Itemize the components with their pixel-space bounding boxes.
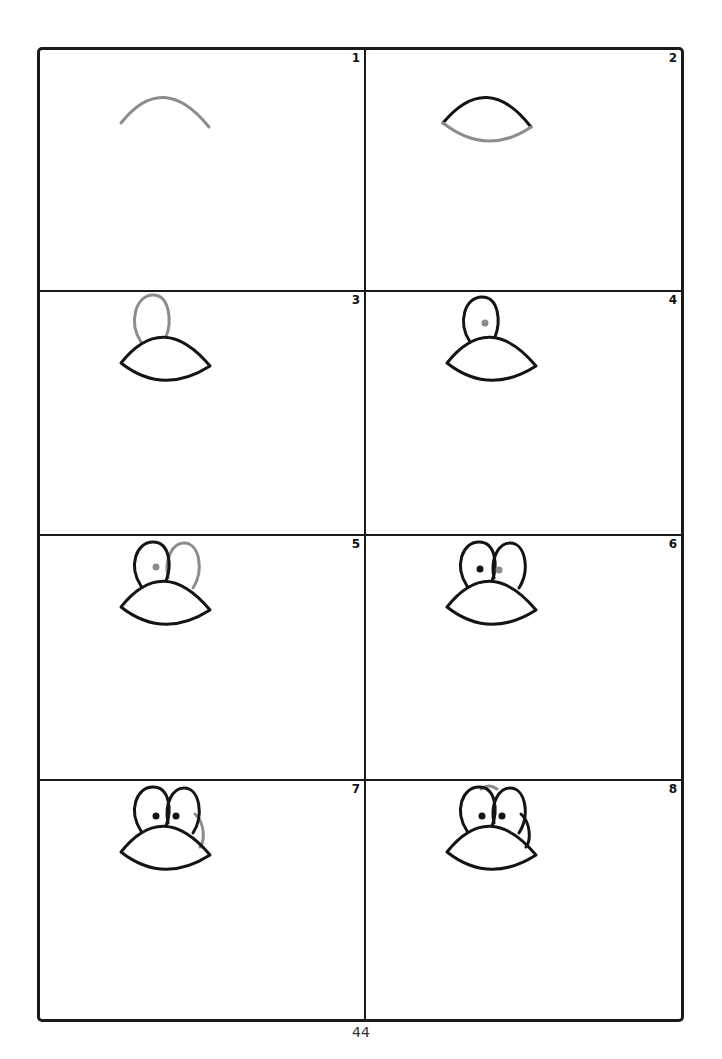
step-panel-6: 6 bbox=[366, 536, 681, 781]
step-panel-1: 1 bbox=[40, 50, 366, 292]
step-panel-3: 3 bbox=[40, 292, 366, 536]
step-drawing-3 bbox=[40, 292, 366, 536]
step-panel-4: 4 bbox=[366, 292, 681, 536]
step-drawing-8 bbox=[366, 781, 684, 1022]
step-panel-5: 5 bbox=[40, 536, 366, 781]
step-drawing-4 bbox=[366, 292, 684, 536]
step-drawing-1 bbox=[40, 50, 366, 294]
page-number: 44 bbox=[0, 1024, 722, 1040]
step-drawing-6 bbox=[366, 536, 684, 780]
tutorial-frame: 1 2 3 4 5 bbox=[37, 47, 684, 1022]
step-panel-2: 2 bbox=[366, 50, 681, 292]
step-panel-8: 8 bbox=[366, 781, 681, 1019]
step-drawing-5 bbox=[40, 536, 366, 780]
step-drawing-7 bbox=[40, 781, 366, 1022]
step-panel-7: 7 bbox=[40, 781, 366, 1019]
step-drawing-2 bbox=[366, 50, 684, 294]
